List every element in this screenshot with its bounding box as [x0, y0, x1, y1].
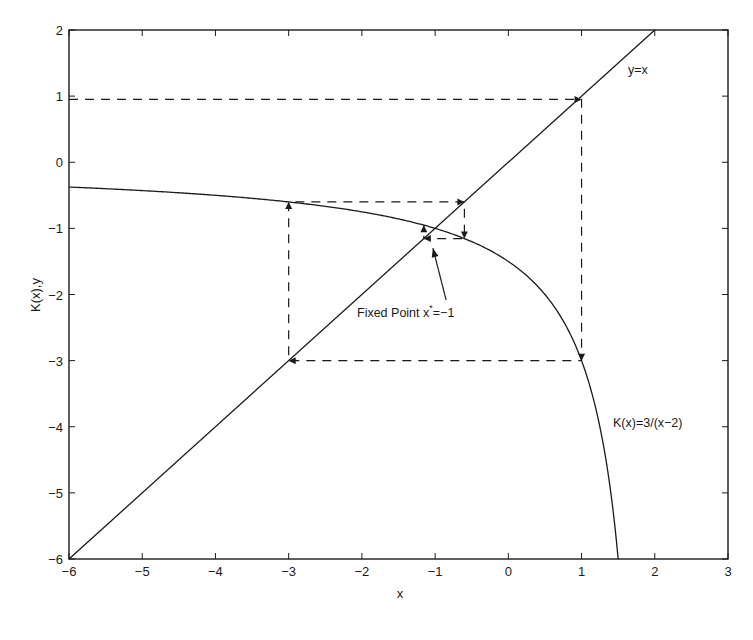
plot-frame	[69, 30, 728, 559]
x-tick-label: −6	[62, 564, 77, 579]
y-tick-label: −1	[48, 221, 63, 236]
axis-tick-labels: −6−5−4−3−2−10123−6−5−4−3−2−1012	[48, 23, 731, 579]
y-tick-label: 1	[56, 89, 63, 104]
annotation-arrowhead-icon	[432, 248, 439, 258]
x-tick-label: 2	[651, 564, 658, 579]
fixed-point-label: Fixed Point x*=−1	[357, 303, 454, 320]
fixed-point-arrow-icon	[432, 248, 446, 300]
y-tick-label: −4	[48, 420, 63, 435]
x-tick-label: −4	[208, 564, 223, 579]
x-tick-label: −2	[354, 564, 369, 579]
y-tick-label: −5	[48, 486, 63, 501]
arrowhead-icon	[285, 202, 292, 209]
y-tick-label: 0	[56, 155, 63, 170]
line-y-equals-x	[69, 30, 655, 559]
line-label-y-equals-x: y=x	[628, 63, 649, 77]
fixed-point-label-main: Fixed Point x	[357, 306, 430, 320]
y-axis-label: K(x),y	[28, 278, 43, 312]
cobweb-chart: −6−5−4−3−2−10123−6−5−4−3−2−1012 x K(x),y…	[0, 0, 753, 640]
plot-series	[69, 30, 655, 559]
y-tick-label: −2	[48, 288, 63, 303]
x-axis-label: x	[397, 586, 404, 601]
y-tick-label: −3	[48, 354, 63, 369]
x-tick-label: 0	[505, 564, 512, 579]
x-tick-label: −5	[135, 564, 150, 579]
curve-k-of-x	[69, 187, 618, 559]
x-tick-label: −1	[428, 564, 443, 579]
x-tick-label: 1	[578, 564, 585, 579]
x-tick-label: 3	[724, 564, 731, 579]
y-tick-label: 2	[56, 23, 63, 38]
cobweb-dashed-path	[69, 99, 582, 360]
fixed-point-label-tail: =−1	[433, 306, 455, 320]
curve-label-k-of-x: K(x)=3/(x−2)	[613, 416, 682, 430]
axis-ticks	[69, 30, 728, 559]
x-tick-label: −3	[281, 564, 296, 579]
y-tick-label: −6	[48, 552, 63, 567]
arrowhead-icon	[578, 354, 585, 361]
